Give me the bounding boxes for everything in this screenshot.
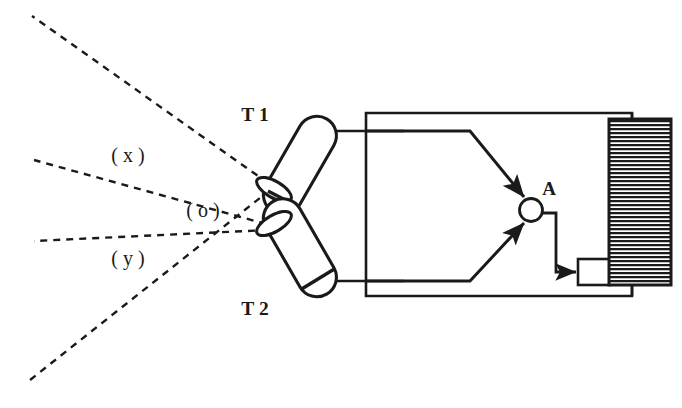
schematic-svg: T 1 T 2 ( x ) ( o ) ( y ) bbox=[0, 0, 682, 408]
summing-node-a bbox=[520, 199, 543, 222]
label-region-x: ( x ) bbox=[111, 144, 144, 167]
label-region-o: ( o ) bbox=[186, 199, 219, 222]
label-t2: T 2 bbox=[241, 298, 268, 319]
hatched-block bbox=[609, 119, 671, 285]
label-t1: T 1 bbox=[241, 104, 268, 125]
figure-canvas: T 1 T 2 ( x ) ( o ) ( y ) bbox=[0, 0, 682, 408]
label-region-y: ( y ) bbox=[111, 247, 144, 270]
small-block bbox=[578, 259, 610, 285]
label-node-a: A bbox=[542, 178, 556, 199]
background bbox=[0, 0, 682, 408]
